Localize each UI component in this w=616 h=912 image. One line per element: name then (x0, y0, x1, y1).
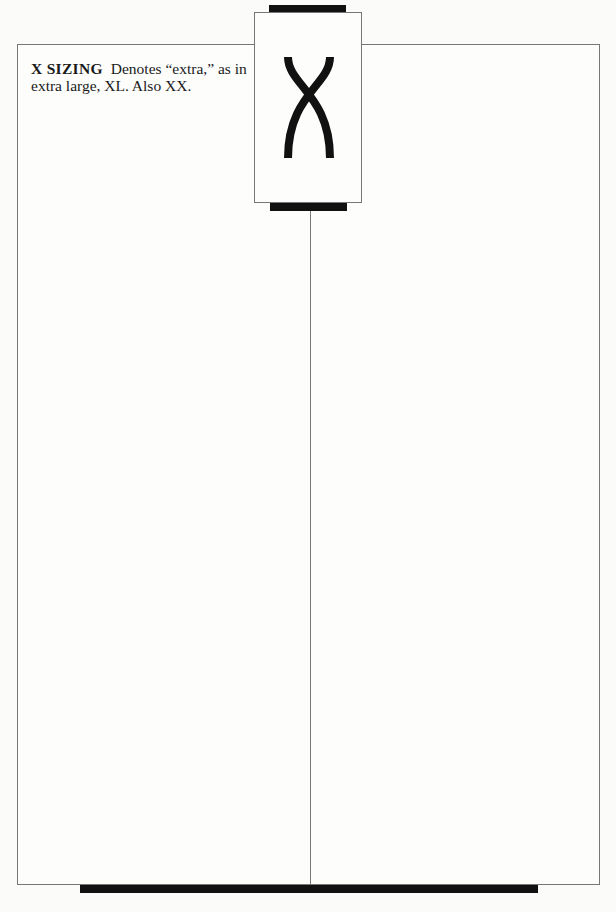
x-letter-glyph-icon (274, 55, 344, 160)
dictionary-entry: X SIZINGDenotes “extra,” as in extra lar… (31, 60, 251, 94)
tab-top-bar (269, 5, 346, 12)
column-divider (310, 203, 311, 885)
entry-headword: X SIZING (31, 60, 103, 77)
page-bottom-bar (80, 885, 538, 893)
tab-bottom-bar (270, 203, 347, 211)
